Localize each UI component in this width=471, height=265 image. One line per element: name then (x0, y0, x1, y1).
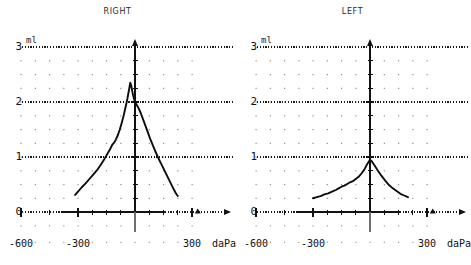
x-tick-label-300: 300 (418, 238, 436, 249)
x-axis-unit-label: daPa (447, 238, 471, 249)
x-tick-label--600: -600 (9, 238, 33, 249)
y-tick-label-1: 1 (8, 150, 22, 163)
y-axis-arrow-icon (132, 39, 138, 46)
y-tick-label-3: 3 (8, 40, 22, 53)
x-tick-label--600: -600 (244, 238, 268, 249)
y-tick-label-0: 0 (8, 205, 22, 218)
y-axis-unit-label: ml (26, 35, 37, 45)
tympanogram-curve (313, 160, 408, 199)
x-axis-unit-label: daPa (212, 238, 236, 249)
panel-left: LEFT 0123ml-600-300300daPa (235, 0, 470, 265)
x-axis-marker-icon (430, 209, 436, 214)
y-tick-label-1: 1 (243, 150, 257, 163)
y-axis-arrow-icon (367, 39, 373, 46)
y-tick-label-2: 2 (8, 95, 22, 108)
x-axis-arrow-icon (224, 209, 231, 215)
grid-dots (256, 60, 428, 243)
y-axis-unit-label: ml (261, 35, 272, 45)
tympanogram-curve (75, 83, 178, 196)
x-axis-marker-icon (195, 209, 201, 214)
x-tick-label-300: 300 (183, 238, 201, 249)
y-tick-label-2: 2 (243, 95, 257, 108)
x-tick-label--300: -300 (66, 238, 90, 249)
y-tick-label-0: 0 (243, 205, 257, 218)
grid-dots (21, 60, 193, 243)
x-axis-arrow-icon (459, 209, 466, 215)
x-tick-label--300: -300 (301, 238, 325, 249)
panel-right: RIGHT 0123ml-600-300300daPa (0, 0, 235, 265)
y-tick-label-3: 3 (243, 40, 257, 53)
